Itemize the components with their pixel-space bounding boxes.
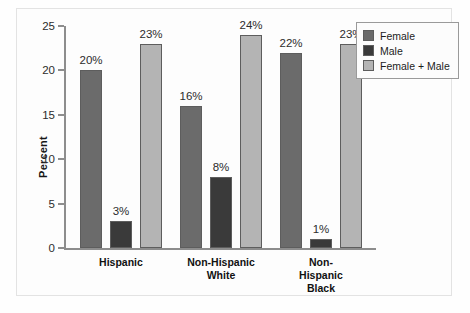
bar	[310, 239, 332, 248]
category-label: Hispanic	[99, 256, 143, 269]
y-tick-mark	[58, 203, 64, 205]
y-axis-line	[64, 26, 66, 248]
y-tick-label: 20	[42, 64, 55, 76]
y-tick-label: 10	[42, 153, 55, 165]
y-tick-label: 5	[49, 198, 55, 210]
bar-value-label: 20%	[79, 54, 102, 66]
legend-swatch-icon	[363, 60, 374, 71]
legend-swatch-icon	[363, 45, 374, 56]
y-tick-mark	[58, 69, 64, 71]
x-axis-line	[64, 248, 376, 250]
bar-value-label: 22%	[279, 37, 302, 49]
bar	[110, 221, 132, 248]
bar	[80, 70, 102, 248]
bar	[240, 35, 262, 248]
chart-legend: FemaleMaleFemale + Male	[356, 22, 459, 79]
category-label: Non-Hispanic White	[187, 256, 255, 282]
bar-value-label: 24%	[239, 19, 262, 31]
bar-chart-figure: Percent 0510152025 20%3%23%16%8%24%22%1%…	[0, 0, 470, 313]
legend-label: Female + Male	[380, 60, 450, 72]
bar	[280, 53, 302, 248]
legend-item: Female	[363, 28, 450, 43]
legend-item: Male	[363, 43, 450, 58]
bar	[210, 177, 232, 248]
bar	[180, 106, 202, 248]
category-label: Non-Hispanic Black	[295, 256, 348, 295]
bar-value-label: 3%	[113, 205, 130, 217]
y-tick-mark	[58, 25, 64, 27]
y-tick-mark	[58, 247, 64, 249]
y-tick-mark	[58, 114, 64, 116]
bar-value-label: 23%	[139, 28, 162, 40]
y-tick-label: 0	[49, 242, 55, 254]
legend-label: Male	[380, 45, 403, 57]
bar	[140, 44, 162, 248]
y-tick-mark	[58, 158, 64, 160]
legend-label: Female	[380, 30, 415, 42]
bar-value-label: 16%	[179, 90, 202, 102]
legend-swatch-icon	[363, 30, 374, 41]
y-tick-label: 25	[42, 20, 55, 32]
bar-value-label: 1%	[313, 223, 330, 235]
plot-area: 0510152025 20%3%23%16%8%24%22%1%23% Hisp…	[64, 26, 374, 248]
bar-value-label: 8%	[213, 161, 230, 173]
y-tick-label: 15	[42, 109, 55, 121]
legend-item: Female + Male	[363, 58, 450, 73]
